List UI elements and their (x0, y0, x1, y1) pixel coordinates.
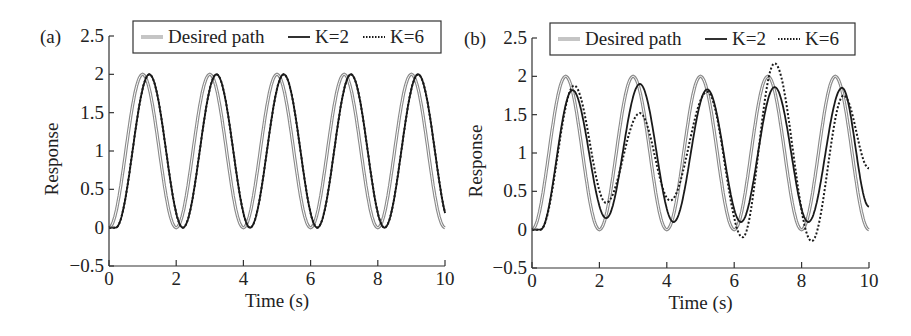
legend: Desired pathK=2K=6 (133, 21, 441, 53)
legend-label: K=2 (732, 28, 766, 49)
y-tick-label: 2 (95, 63, 105, 84)
x-tick-label: 8 (373, 268, 383, 289)
x-axis-title: Time (s) (245, 290, 309, 312)
series-desired-path-line-inner (109, 74, 445, 227)
figure: −0.500.511.522.50246810Time (s)Response(… (0, 0, 911, 336)
x-tick-label: 10 (436, 268, 455, 289)
y-tick-label: 2 (518, 65, 528, 86)
y-tick-label: 1 (518, 142, 528, 163)
y-tick-label: 2.5 (503, 27, 527, 48)
x-tick-label: 10 (860, 270, 879, 291)
y-tick-label: 1.5 (503, 104, 527, 125)
y-tick-label: 0.5 (80, 178, 104, 199)
y-tick-label: 0 (518, 219, 528, 240)
legend-label: Desired path (168, 26, 265, 47)
y-tick-label: −0.5 (493, 257, 527, 278)
y-tick-label: −0.5 (70, 255, 104, 276)
x-tick-label: 6 (729, 270, 739, 291)
x-tick-label: 4 (239, 268, 249, 289)
y-tick-label: 2.5 (80, 25, 104, 46)
x-tick-label: 6 (306, 268, 316, 289)
x-axis-title: Time (s) (668, 292, 732, 314)
x-tick-label: 0 (527, 270, 537, 291)
y-tick-label: 1.5 (80, 102, 104, 123)
legend-label: K=6 (390, 26, 424, 47)
y-tick-label: 1 (95, 140, 105, 161)
panel-b: −0.500.511.522.50246810Time (s)Response(… (464, 23, 879, 314)
legend-label: Desired path (585, 28, 682, 49)
panel-label: (b) (464, 28, 486, 50)
x-tick-label: 8 (797, 270, 807, 291)
y-tick-label: 0.5 (503, 180, 527, 201)
legend-label: K=2 (315, 26, 349, 47)
x-tick-label: 2 (171, 268, 181, 289)
y-tick-label: 0 (95, 217, 105, 238)
legend: Desired pathK=2K=6 (550, 23, 855, 55)
x-tick-label: 4 (662, 270, 672, 291)
panel-a: −0.500.511.522.50246810Time (s)Response(… (40, 21, 455, 312)
legend-label: K=6 (805, 28, 839, 49)
panel-label: (a) (40, 26, 61, 48)
y-axis-title: Response (41, 123, 62, 196)
x-tick-label: 0 (104, 268, 114, 289)
x-tick-label: 2 (595, 270, 605, 291)
y-axis-title: Response (465, 125, 486, 198)
